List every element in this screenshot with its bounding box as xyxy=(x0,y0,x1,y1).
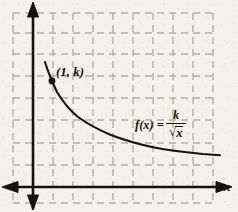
square-root-icon: √ x xyxy=(169,125,183,140)
radical-vinculum xyxy=(175,126,183,127)
y-axis-arrow-up-icon xyxy=(28,2,39,17)
radicand-wrapper: x xyxy=(175,126,183,140)
x-axis-label: x xyxy=(224,180,231,193)
graph-canvas xyxy=(0,0,238,212)
function-graph-figure: (1, k) f(x) = k √ x x xyxy=(0,0,238,212)
x-axis-arrow-left-icon xyxy=(2,182,18,193)
radicand: x xyxy=(176,126,182,140)
function-equation-lhs: f(x) = xyxy=(135,119,164,132)
fraction-denominator: √ x xyxy=(166,124,186,140)
marked-point-dot xyxy=(49,78,56,85)
function-fraction: k √ x xyxy=(166,109,186,140)
point-label: (1, k) xyxy=(56,65,84,78)
fraction-numerator: k xyxy=(170,109,182,123)
grid-lines xyxy=(13,13,213,203)
function-equation-label: f(x) = k √ x xyxy=(135,110,186,141)
